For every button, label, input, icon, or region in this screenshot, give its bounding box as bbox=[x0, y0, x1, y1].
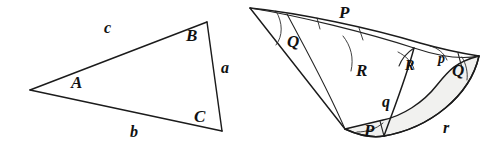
plane-vertex-label-a: A bbox=[71, 74, 82, 91]
left-long-edge bbox=[250, 8, 345, 129]
plane-side-label-a: a bbox=[221, 60, 229, 76]
ridge-tick-right bbox=[359, 28, 363, 40]
ridge-tick-left bbox=[317, 18, 320, 29]
plane-triangle-side-a bbox=[207, 22, 222, 131]
outer-edge-top bbox=[250, 8, 479, 56]
angle-arc-q-left bbox=[276, 11, 281, 45]
spherical-arc-label-r: r bbox=[443, 120, 449, 136]
spherical-angle-label-p-bottom: P bbox=[364, 122, 374, 139]
geometry-figure: A B C a b c P Q R R p Q q P r bbox=[0, 0, 496, 151]
angle-arc-r-mid bbox=[343, 36, 352, 71]
spherical-angle-label-r-mid: R bbox=[356, 62, 367, 79]
plane-side-label-b: b bbox=[130, 124, 138, 140]
spherical-angle-label-q-left: Q bbox=[287, 33, 299, 50]
spherical-angle-label-q-right: Q bbox=[452, 62, 464, 79]
spherical-angle-label-p-top: P bbox=[339, 4, 349, 21]
spherical-arc-label-p-small: p bbox=[438, 52, 445, 66]
plane-triangle-side-c bbox=[30, 22, 207, 90]
plane-vertex-label-b: B bbox=[186, 27, 197, 44]
plane-vertex-label-c: C bbox=[194, 108, 205, 125]
spherical-angle-label-r-right: R bbox=[405, 59, 414, 73]
plane-side-label-c: c bbox=[104, 20, 111, 36]
spherical-arc-label-q: q bbox=[382, 94, 390, 110]
